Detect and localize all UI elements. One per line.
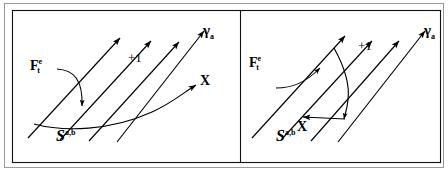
surface-superscript: a,b — [285, 128, 295, 137]
force-subscript: t — [37, 66, 40, 75]
axis-label-left: X — [200, 74, 210, 88]
figure-container: Fet +1 γa X Sa,b Fet +1 γa X Sa,b — [0, 0, 448, 175]
force-subscript: t — [256, 63, 259, 72]
gamma-label-left: γa — [203, 23, 214, 41]
surface-base: S — [56, 127, 65, 144]
surface-superscript: a,b — [65, 128, 75, 137]
surface-label-left: Sa,b — [56, 128, 75, 144]
surface-base: S — [276, 127, 285, 144]
force-label-left: Fet — [30, 58, 40, 75]
gamma-label-right: γa — [424, 23, 435, 41]
surface-label-right: Sa,b — [276, 128, 295, 144]
force-label-right: Fet — [249, 55, 259, 72]
inner-frame — [13, 11, 441, 163]
gamma-base: γ — [203, 22, 210, 38]
gamma-base: γ — [424, 22, 431, 38]
figure-vector-canvas — [0, 0, 448, 175]
axis-label-right: X — [297, 120, 307, 134]
force-superscript: e — [258, 54, 262, 63]
increment-label-right: +1 — [358, 39, 372, 52]
gamma-subscript: a — [431, 32, 435, 41]
increment-label-left: +1 — [128, 51, 142, 64]
force-superscript: e — [39, 57, 43, 66]
gamma-subscript: a — [210, 32, 214, 41]
